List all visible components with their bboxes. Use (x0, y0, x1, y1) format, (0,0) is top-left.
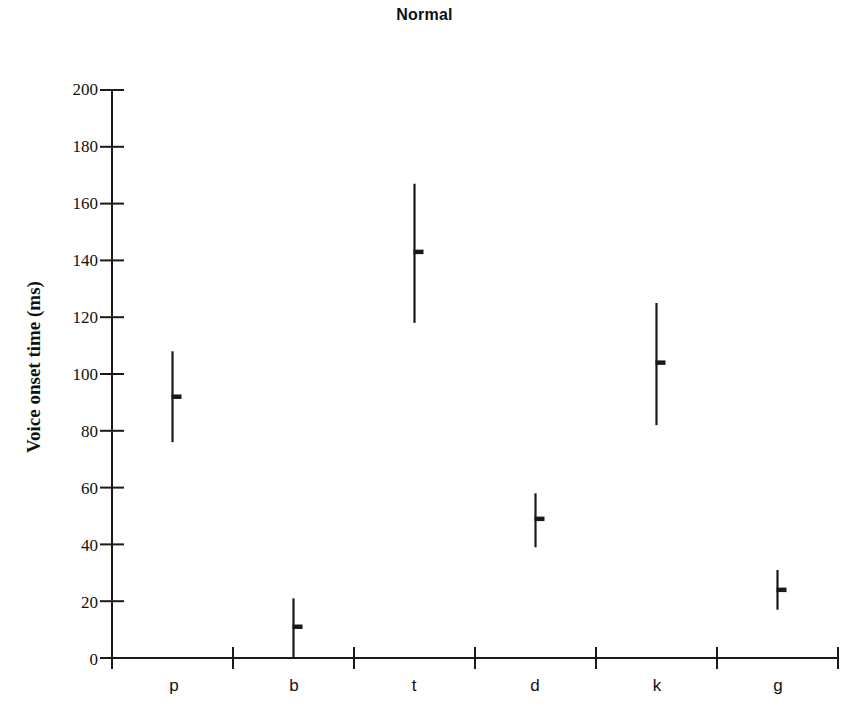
data-points (172, 184, 787, 658)
chart-figure: Normal Voice onset time (ms) 200 180 160… (0, 0, 849, 720)
data-point-d (535, 493, 545, 547)
plot-area (0, 0, 849, 720)
axis-lines (112, 90, 838, 658)
data-point-k (656, 303, 666, 425)
data-point-p (172, 351, 182, 442)
data-point-t (414, 184, 424, 323)
data-point-b (293, 598, 303, 658)
data-point-g (777, 570, 787, 610)
